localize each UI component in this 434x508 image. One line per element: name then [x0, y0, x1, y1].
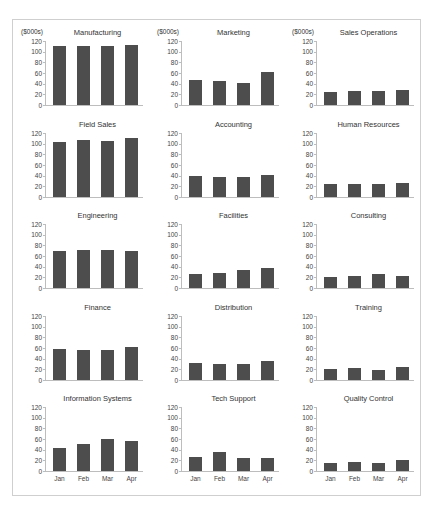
y-tick-label: 100 — [292, 140, 313, 147]
y-tick-label: 40 — [21, 172, 42, 179]
y-tick-label: 60 — [21, 253, 42, 260]
bar-mar — [101, 141, 114, 197]
bar-feb — [77, 140, 90, 197]
y-tick-label: 120 — [21, 221, 42, 228]
bar-mar — [372, 370, 385, 380]
chart-title: Consulting — [316, 211, 421, 220]
y-tick-label: 20 — [157, 366, 178, 373]
y-tick-label: 80 — [292, 334, 313, 341]
y-tick-label: 120 — [157, 404, 178, 411]
y-tick-label: 60 — [292, 162, 313, 169]
bar-jan — [53, 142, 66, 197]
bar-mar — [237, 83, 250, 105]
y-tick-label: 0 — [157, 468, 178, 475]
y-tick-label: 80 — [292, 59, 313, 66]
bar-jan — [53, 46, 66, 105]
y-tick-label: 100 — [21, 231, 42, 238]
x-axis-line — [45, 105, 143, 106]
bar-mar — [237, 364, 250, 380]
y-tick-label: 40 — [21, 446, 42, 453]
bar-mar — [237, 458, 250, 471]
chart-panel-finance: Finance120100806040200 — [15, 301, 150, 393]
bar-apr — [396, 183, 409, 197]
chart-title: Human Resources — [316, 120, 421, 129]
y-tick-label: 60 — [292, 345, 313, 352]
y-axis-line — [181, 41, 182, 105]
y-tick-label: 80 — [21, 59, 42, 66]
y-tick-label: 80 — [157, 151, 178, 158]
y-tick-label: 20 — [21, 183, 42, 190]
bar-feb — [348, 91, 361, 105]
chart-panel-engineering: Engineering120100806040200 — [15, 209, 150, 301]
y-tick-label: 120 — [292, 130, 313, 137]
y-tick-label: 40 — [157, 80, 178, 87]
chart-panel-information-systems: Information Systems120100806040200JanFeb… — [15, 392, 150, 484]
y-tick-label: 0 — [292, 285, 313, 292]
y-tick-label: 0 — [292, 377, 313, 384]
y-tick-label: 100 — [292, 323, 313, 330]
y-tick-label: 120 — [292, 313, 313, 320]
small-multiples-frame: Manufacturing($000s)120100806040200Marke… — [12, 19, 421, 496]
x-tick-label: Mar — [96, 475, 120, 482]
bar-apr — [261, 175, 274, 197]
x-tick-label: Jan — [48, 475, 72, 482]
bar-jan — [324, 463, 337, 471]
x-axis-line — [181, 471, 279, 472]
x-tick-label: Apr — [120, 475, 144, 482]
bar-feb — [213, 364, 226, 380]
y-tick-label: 120 — [292, 221, 313, 228]
bar-feb — [213, 273, 226, 288]
chart-title: Information Systems — [45, 394, 150, 403]
y-tick-label: 80 — [21, 242, 42, 249]
y-tick-label: 20 — [21, 274, 42, 281]
y-tick-label: 100 — [21, 323, 42, 330]
chart-panel-human-resources: Human Resources120100806040200 — [286, 118, 421, 210]
y-tick-label: 20 — [157, 457, 178, 464]
y-tick-label: 40 — [292, 172, 313, 179]
y-tick-label: 80 — [157, 242, 178, 249]
y-tick-label: 80 — [292, 425, 313, 432]
y-axis-line — [181, 133, 182, 197]
y-tick-label: 20 — [292, 274, 313, 281]
y-tick-label: 60 — [21, 345, 42, 352]
chart-panel-accounting: Accounting120100806040200 — [151, 118, 286, 210]
y-tick-label: 100 — [157, 323, 178, 330]
y-tick-label: 0 — [21, 285, 42, 292]
chart-title: Quality Control — [316, 394, 421, 403]
bar-jan — [189, 80, 202, 105]
bar-apr — [396, 460, 409, 471]
y-tick-label: 20 — [292, 457, 313, 464]
y-axis-units-label: ($000s) — [292, 28, 314, 35]
y-tick-label: 60 — [292, 253, 313, 260]
x-tick-label: Jan — [184, 475, 208, 482]
y-axis-line — [45, 407, 46, 471]
bar-feb — [348, 462, 361, 471]
y-axis-line — [181, 316, 182, 380]
chart-panel-distribution: Distribution120100806040200 — [151, 301, 286, 393]
bar-apr — [125, 347, 138, 380]
bar-apr — [125, 45, 138, 105]
bar-apr — [396, 90, 409, 105]
bar-feb — [77, 350, 90, 380]
y-tick-label: 120 — [292, 38, 313, 45]
y-tick-label: 20 — [21, 91, 42, 98]
bar-jan — [189, 274, 202, 288]
chart-title: Distribution — [181, 303, 286, 312]
y-tick-label: 120 — [157, 38, 178, 45]
y-tick-label: 20 — [292, 366, 313, 373]
y-tick-label: 80 — [157, 334, 178, 341]
y-tick-label: 120 — [157, 221, 178, 228]
y-tick-label: 20 — [157, 183, 178, 190]
y-axis-line — [181, 407, 182, 471]
bar-feb — [348, 276, 361, 288]
y-tick-label: 60 — [157, 162, 178, 169]
bar-feb — [348, 184, 361, 197]
y-tick-label: 60 — [157, 436, 178, 443]
bar-mar — [101, 350, 114, 380]
bar-jan — [189, 457, 202, 471]
y-tick-label: 100 — [157, 48, 178, 55]
bar-mar — [372, 184, 385, 197]
bar-jan — [53, 251, 66, 288]
x-axis-line — [316, 105, 414, 106]
bar-feb — [348, 368, 361, 380]
